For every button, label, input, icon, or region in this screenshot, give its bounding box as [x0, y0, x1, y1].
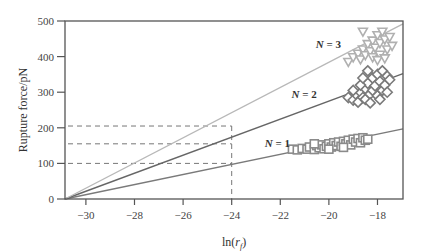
rupture-force-chart: −30−28−26−24−22−20−18 0100200300400500 N…: [0, 0, 423, 251]
series-label: N = 1: [264, 137, 290, 149]
y-tick-label: 0: [49, 193, 55, 205]
fit-line: [65, 24, 403, 199]
triangle-down-marker: [373, 57, 382, 65]
y-tick-label: 500: [38, 15, 55, 27]
y-tick-label: 400: [38, 51, 55, 63]
y-tick-label: 200: [38, 122, 55, 134]
y-tick-label: 300: [38, 86, 55, 98]
y-tick-label: 100: [38, 157, 55, 169]
x-axis-ticks: −30−28−26−24−22−20−18: [77, 199, 386, 221]
triangle-down-marker: [380, 55, 389, 63]
series-annotations: N = 1N = 2N = 3: [264, 38, 342, 149]
x-tick-label: −24: [223, 209, 241, 221]
x-tick-label: −18: [369, 209, 387, 221]
square-marker: [339, 143, 347, 151]
square-marker: [310, 140, 318, 148]
series-label: N = 2: [291, 88, 318, 100]
triangle-down-marker: [358, 28, 367, 36]
y-axis-ticks: 0100200300400500: [38, 15, 66, 205]
y-axis-label: Rupture force/pN: [16, 68, 30, 153]
x-axis-label: ln(rf): [222, 235, 246, 251]
fit-lines: [65, 24, 403, 199]
square-marker: [364, 135, 372, 143]
x-tick-label: −30: [77, 209, 95, 221]
x-tick-label: −22: [272, 209, 289, 221]
x-tick-label: −26: [174, 209, 192, 221]
series-label: N = 3: [315, 38, 342, 50]
square-marker: [325, 145, 333, 153]
x-tick-label: −20: [320, 209, 338, 221]
x-tick-label: −28: [126, 209, 144, 221]
